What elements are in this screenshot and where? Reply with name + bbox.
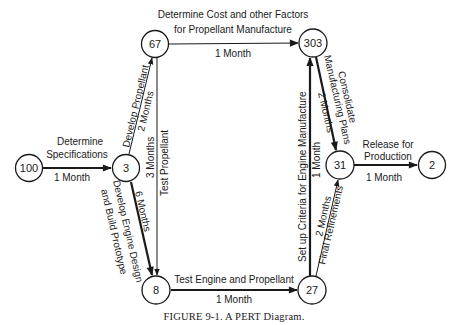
figure-caption: FIGURE 9-1. A PERT Diagram. (163, 311, 304, 322)
node-label: 27 (306, 284, 318, 296)
node-label: 67 (149, 38, 161, 50)
duration-label: 1 Month (216, 294, 252, 305)
node-27: 27 (298, 276, 326, 304)
node-label: 303 (304, 37, 322, 49)
activity-label: Determine (57, 136, 104, 147)
node-label: 8 (153, 284, 159, 296)
activity-label: Release for (362, 139, 414, 150)
edge-67-303 (169, 43, 298, 44)
node-label: 3 (123, 162, 129, 174)
activity-label: Determine Cost and other Factors (158, 9, 309, 20)
node-label: 100 (20, 162, 38, 174)
node-8: 8 (142, 276, 170, 304)
activity-label: Test Propellant (159, 130, 170, 196)
duration-label: 6 Months (133, 190, 153, 233)
activity-label: Set up Criteria for Engine Manufacture (297, 91, 308, 262)
duration-label: 1 Month (366, 172, 402, 183)
pert-diagram: 100 3 67 303 8 27 31 2 Determine Specifi… (0, 0, 462, 325)
node-67: 67 (142, 31, 169, 58)
activity-label: Production (364, 151, 412, 162)
activity-label: for Propellant Manufacture (174, 24, 292, 35)
node-100: 100 (16, 155, 43, 182)
duration-label: 3 Months (145, 137, 156, 178)
node-2: 2 (419, 152, 446, 179)
activity-label: Specifications (46, 149, 108, 160)
duration-label: 1 Month (215, 48, 251, 59)
activity-label: Test Engine and Propellant (174, 274, 294, 285)
node-label: 2 (429, 159, 435, 171)
node-31: 31 (326, 151, 354, 179)
duration-label: 1 Month (54, 172, 90, 183)
node-303: 303 (299, 29, 327, 57)
node-3: 3 (113, 155, 140, 182)
duration-label: 1 Month (311, 142, 322, 178)
node-label: 31 (334, 159, 346, 171)
